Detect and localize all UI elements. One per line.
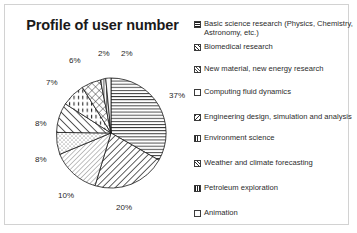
pie-label-6: 6% bbox=[69, 56, 81, 65]
legend-item-petroleum[interactable]: Petroleum exploration bbox=[194, 183, 354, 192]
pie-label-20: 20% bbox=[116, 203, 132, 212]
legend-label: Engineering design, simulation and analy… bbox=[204, 112, 352, 121]
legend-item-biomedical[interactable]: Biomedical research bbox=[194, 42, 354, 51]
legend-swatch-solid-light-icon bbox=[194, 210, 201, 217]
legend-label: Animation bbox=[204, 208, 238, 217]
legend-swatch-vertical-lines-icon bbox=[194, 185, 201, 192]
legend-item-basic-science[interactable]: Basic science research (Physics, Chemist… bbox=[194, 19, 354, 38]
pie-label-2-b: 2% bbox=[121, 49, 133, 58]
pie-label-2-a: 2% bbox=[98, 49, 110, 58]
pie-chart: 37% 20% 10% 8% 8% 7% 6% 2% 2% bbox=[11, 31, 193, 223]
legend-swatch-fine-diagonal-icon bbox=[194, 66, 201, 73]
legend-label: Biomedical research bbox=[204, 42, 273, 51]
pie-label-7: 7% bbox=[46, 78, 58, 87]
pie-label-8-b: 8% bbox=[35, 119, 47, 128]
legend-label: Petroleum exploration bbox=[204, 183, 278, 192]
legend-item-new-material[interactable]: New material, new energy research bbox=[194, 64, 354, 73]
legend-swatch-wide-diagonal-icon bbox=[194, 114, 201, 121]
legend-item-animation[interactable]: Animation bbox=[194, 208, 354, 217]
pie-slices bbox=[56, 78, 166, 188]
legend-item-environment-science[interactable]: Environment science bbox=[194, 133, 354, 142]
legend-swatch-cross-hatch-icon bbox=[194, 160, 201, 167]
legend-item-computing-fluid[interactable]: Computing fluid dynamics bbox=[194, 87, 354, 96]
legend-label: New material, new energy research bbox=[204, 64, 323, 73]
chart-legend: Basic science research (Physics, Chemist… bbox=[194, 15, 354, 227]
legend-swatch-diagonal-hatch-icon bbox=[194, 44, 201, 51]
pie-label-37: 37% bbox=[169, 91, 185, 100]
legend-label: Computing fluid dynamics bbox=[204, 87, 291, 96]
pie-label-8-a: 8% bbox=[35, 155, 47, 164]
legend-swatch-vertical-dashes-icon bbox=[194, 135, 201, 142]
legend-swatch-horizontal-lines-icon bbox=[194, 21, 201, 28]
legend-item-engineering-design[interactable]: Engineering design, simulation and analy… bbox=[194, 112, 354, 121]
legend-swatch-dotted-icon bbox=[194, 89, 201, 96]
pie-label-10: 10% bbox=[58, 191, 74, 200]
legend-label: Environment science bbox=[204, 133, 275, 142]
legend-label: Basic science research (Physics, Chemist… bbox=[204, 19, 354, 38]
legend-item-weather-climate[interactable]: Weather and climate forecasting bbox=[194, 158, 354, 167]
chart-container: Profile of user number bbox=[4, 4, 349, 225]
legend-label: Weather and climate forecasting bbox=[204, 158, 313, 167]
